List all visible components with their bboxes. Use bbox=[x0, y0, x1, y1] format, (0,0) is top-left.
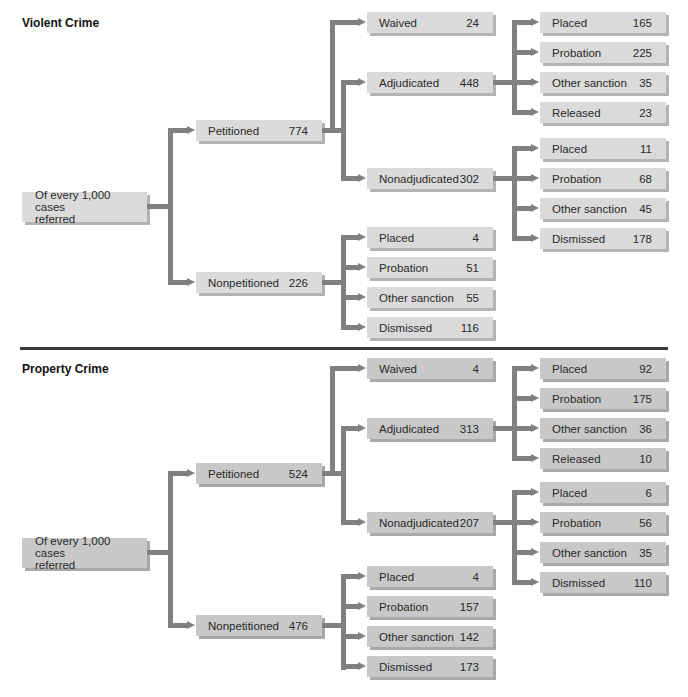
arrow-icon bbox=[531, 488, 539, 496]
root-label-line2: referred bbox=[35, 213, 75, 225]
nonpet-placed-box: Placed 4 bbox=[367, 566, 493, 587]
petitioned-box: Petitioned 774 bbox=[196, 120, 322, 141]
box-value: 142 bbox=[460, 631, 479, 643]
nonpet-probation-box: Probation 157 bbox=[367, 596, 493, 617]
nonpetitioned-box: Nonpetitioned 226 bbox=[196, 272, 322, 293]
arrow-icon bbox=[358, 424, 366, 432]
connector bbox=[512, 110, 531, 115]
box-value: 302 bbox=[460, 173, 479, 185]
connector bbox=[512, 490, 517, 585]
arrow-icon bbox=[358, 174, 366, 182]
arrow-icon bbox=[358, 78, 366, 86]
box-label: Adjudicated bbox=[379, 423, 439, 435]
connector bbox=[341, 574, 346, 670]
connector bbox=[512, 20, 531, 25]
nonadj-probation-box: Probation 56 bbox=[540, 512, 666, 533]
box-value: 6 bbox=[646, 487, 652, 499]
box-value: 157 bbox=[460, 601, 479, 613]
connector bbox=[512, 146, 531, 151]
nonadj-placed-box: Placed 11 bbox=[540, 138, 666, 159]
box-label: Petitioned bbox=[208, 468, 259, 480]
nonadj-placed-box: Placed 6 bbox=[540, 482, 666, 503]
connector bbox=[341, 295, 358, 300]
connector bbox=[512, 366, 517, 461]
root-label-line2: referred bbox=[35, 559, 75, 571]
nonpet-placed-box: Placed 4 bbox=[367, 227, 493, 248]
box-value: 45 bbox=[639, 203, 652, 215]
adj-placed-box: Placed 92 bbox=[540, 358, 666, 379]
connector bbox=[330, 366, 358, 371]
box-value: 178 bbox=[633, 233, 652, 245]
connector bbox=[512, 490, 531, 495]
nonadj-dismissed-box: Dismissed 110 bbox=[540, 572, 666, 593]
box-label: Placed bbox=[552, 363, 587, 375]
connector bbox=[341, 235, 358, 240]
box-value: 35 bbox=[639, 77, 652, 89]
adjudicated-box: Adjudicated 448 bbox=[367, 72, 493, 93]
connector bbox=[341, 426, 358, 431]
box-label: Waived bbox=[379, 17, 417, 29]
arrow-icon bbox=[187, 621, 195, 629]
arrow-icon bbox=[531, 234, 539, 242]
nonadj-dismissed-box: Dismissed 178 bbox=[540, 228, 666, 249]
connector bbox=[341, 176, 358, 181]
connector bbox=[512, 20, 517, 115]
connector bbox=[341, 325, 358, 330]
connector bbox=[330, 20, 335, 133]
connector bbox=[341, 574, 358, 579]
box-value: 165 bbox=[633, 17, 652, 29]
nonadjudicated-box: Nonadjudicated 302 bbox=[367, 168, 493, 189]
arrow-icon bbox=[358, 518, 366, 526]
connector bbox=[512, 80, 531, 85]
box-value: 24 bbox=[466, 17, 479, 29]
box-value: 35 bbox=[639, 547, 652, 559]
nonadjudicated-box: Nonadjudicated 207 bbox=[367, 512, 493, 533]
adj-placed-box: Placed 165 bbox=[540, 12, 666, 33]
box-value: 68 bbox=[639, 173, 652, 185]
connector bbox=[341, 80, 346, 181]
connector bbox=[168, 128, 188, 133]
box-label: Dismissed bbox=[552, 577, 605, 589]
arrow-icon bbox=[531, 144, 539, 152]
nonpet-dismissed-box: Dismissed 173 bbox=[367, 656, 493, 677]
adj-other-sanction-box: Other sanction 36 bbox=[540, 418, 666, 439]
arrow-icon bbox=[358, 632, 366, 640]
box-value: 56 bbox=[639, 517, 652, 529]
nonpet-probation-box: Probation 51 bbox=[367, 257, 493, 278]
box-value: 23 bbox=[639, 107, 652, 119]
connector bbox=[341, 520, 358, 525]
connector bbox=[341, 664, 358, 669]
arrow-icon bbox=[358, 323, 366, 331]
nonadj-other-sanction-box: Other sanction 35 bbox=[540, 542, 666, 563]
arrow-icon bbox=[358, 293, 366, 301]
box-value: 10 bbox=[639, 453, 652, 465]
box-label: Nonpetitioned bbox=[208, 277, 279, 289]
box-value: 226 bbox=[289, 277, 308, 289]
adj-released-box: Released 23 bbox=[540, 102, 666, 123]
connector bbox=[341, 426, 346, 525]
box-label: Probation bbox=[379, 601, 428, 613]
arrow-icon bbox=[531, 394, 539, 402]
arrow-icon bbox=[531, 78, 539, 86]
arrow-icon bbox=[187, 469, 195, 477]
connector bbox=[330, 20, 358, 25]
box-label: Other sanction bbox=[552, 547, 627, 559]
nonpetitioned-box: Nonpetitioned 476 bbox=[196, 615, 322, 636]
section-title: Violent Crime bbox=[22, 16, 99, 30]
connector bbox=[168, 280, 188, 285]
connector bbox=[341, 235, 346, 330]
box-label: Placed bbox=[379, 571, 414, 583]
box-value: 4 bbox=[473, 232, 479, 244]
adj-released-box: Released 10 bbox=[540, 448, 666, 469]
box-label: Probation bbox=[552, 393, 601, 405]
connector bbox=[512, 146, 517, 241]
box-label: Other sanction bbox=[552, 203, 627, 215]
box-value: 11 bbox=[640, 143, 652, 155]
box-value: 225 bbox=[633, 47, 652, 59]
box-label: Placed bbox=[552, 487, 587, 499]
box-value: 175 bbox=[633, 393, 652, 405]
box-value: 774 bbox=[289, 125, 308, 137]
box-label: Other sanction bbox=[379, 292, 454, 304]
waived-box: Waived 24 bbox=[367, 12, 493, 33]
box-label: Released bbox=[552, 107, 601, 119]
